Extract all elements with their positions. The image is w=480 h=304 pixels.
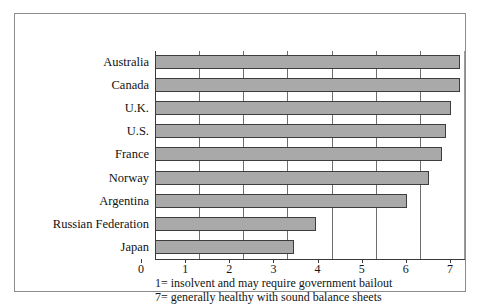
x-tick-label-0: 0 xyxy=(131,263,151,276)
gridline-7 xyxy=(464,51,465,259)
bar-row xyxy=(155,190,464,213)
bar xyxy=(155,194,407,208)
bar xyxy=(155,147,442,161)
category-label: U.S. xyxy=(29,124,149,138)
bar-row xyxy=(155,236,464,259)
x-tick-label-5: 5 xyxy=(352,263,372,276)
figure-frame: AustraliaCanadaU.K.U.S.FranceNorwayArgen… xyxy=(14,13,466,292)
category-label: France xyxy=(29,147,149,161)
category-label: Norway xyxy=(29,171,149,185)
bar xyxy=(155,171,429,185)
bar xyxy=(155,124,446,138)
bar-row xyxy=(155,167,464,190)
bar-row xyxy=(155,97,464,120)
bar-row xyxy=(155,120,464,143)
category-label: Argentina xyxy=(29,194,149,208)
category-label: Australia xyxy=(29,55,149,69)
bar-row xyxy=(155,213,464,236)
bar xyxy=(155,101,451,115)
category-axis-labels: AustraliaCanadaU.K.U.S.FranceNorwayArgen… xyxy=(29,51,149,259)
x-tick-label-6: 6 xyxy=(396,263,416,276)
bar xyxy=(155,217,316,231)
x-tick-label-2: 2 xyxy=(219,263,239,276)
category-label: Russian Federation xyxy=(29,217,149,231)
chart-footnotes: 1= insolvent and may require government … xyxy=(155,276,455,304)
bar xyxy=(155,78,460,92)
footnote-1: 1= insolvent and may require government … xyxy=(155,276,455,290)
bar-row xyxy=(155,51,464,74)
bar xyxy=(155,55,460,69)
bar xyxy=(155,240,294,254)
category-label: Japan xyxy=(29,240,149,254)
x-tick-label-7: 7 xyxy=(440,263,460,276)
category-label: U.K. xyxy=(29,101,149,115)
category-label: Canada xyxy=(29,78,149,92)
plot-area xyxy=(155,51,464,259)
x-tick-label-3: 3 xyxy=(263,263,283,276)
footnote-2: 7= generally healthy with sound balance … xyxy=(155,290,455,304)
bar-row xyxy=(155,74,464,97)
x-tick-label-1: 1 xyxy=(175,263,195,276)
x-axis-line xyxy=(155,259,465,260)
x-tick-label-4: 4 xyxy=(308,263,328,276)
bar-row xyxy=(155,143,464,166)
